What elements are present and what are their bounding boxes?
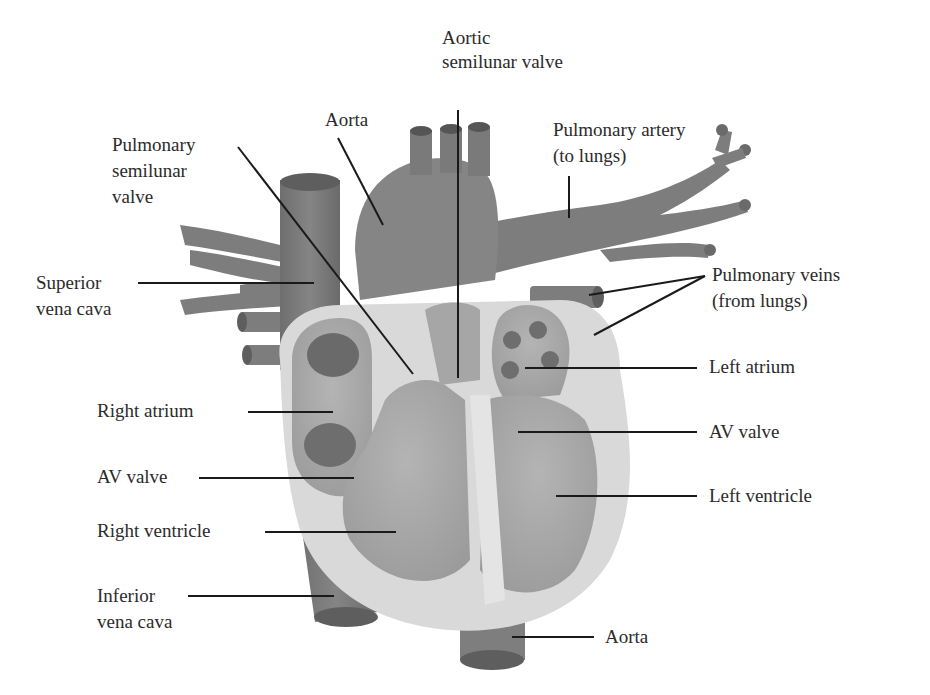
- label-aortic-semilunar-valve: Aortic semilunar valve: [442, 26, 563, 74]
- label-line: Aorta: [325, 108, 368, 132]
- label-line: Inferior: [97, 583, 172, 609]
- label-aorta-top: Aorta: [325, 108, 368, 132]
- label-superior-vena-cava: Superior vena cava: [36, 270, 111, 322]
- leader-aorta-top: [338, 138, 383, 225]
- label-pulmonary-semilunar-valve: Pulmonary semilunar valve: [112, 132, 195, 210]
- label-right-ventricle: Right ventricle: [97, 519, 210, 543]
- label-line: Pulmonary artery: [553, 117, 685, 143]
- label-line: Pulmonary veins: [712, 262, 840, 288]
- label-line: semilunar: [112, 158, 195, 184]
- label-line: semilunar valve: [442, 50, 563, 74]
- label-pulmonary-veins: Pulmonary veins (from lungs): [712, 262, 840, 314]
- label-line: Right atrium: [97, 399, 194, 423]
- label-pulmonary-artery: Pulmonary artery (to lungs): [553, 117, 685, 169]
- heart-body: [279, 300, 630, 631]
- label-line: Pulmonary: [112, 132, 195, 158]
- label-line: Aorta: [605, 625, 648, 649]
- label-line: Aortic: [442, 26, 563, 50]
- label-line: Right ventricle: [97, 519, 210, 543]
- label-line: (from lungs): [712, 288, 840, 314]
- label-line: AV valve: [97, 465, 168, 489]
- label-line: Superior: [36, 270, 111, 296]
- label-line: vena cava: [36, 296, 111, 322]
- label-right-atrium: Right atrium: [97, 399, 194, 423]
- label-left-atrium: Left atrium: [709, 355, 795, 379]
- label-line: Left ventricle: [709, 484, 812, 508]
- label-left-ventricle: Left ventricle: [709, 484, 812, 508]
- label-av-valve-left: AV valve: [709, 420, 780, 444]
- label-aorta-bottom: Aorta: [605, 625, 648, 649]
- label-line: AV valve: [709, 420, 780, 444]
- label-line: valve: [112, 184, 195, 210]
- label-av-valve-right: AV valve: [97, 465, 168, 489]
- label-inferior-vena-cava: Inferior vena cava: [97, 583, 172, 635]
- label-line: vena cava: [97, 609, 172, 635]
- label-line: Left atrium: [709, 355, 795, 379]
- label-line: (to lungs): [553, 143, 685, 169]
